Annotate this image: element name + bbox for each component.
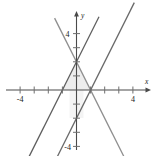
y-axis-label: y [80,11,85,20]
x-tick-label-pos4: 4 [131,95,135,104]
y-tick-label-neg4: -4 [64,143,71,152]
x-axis-label: x [144,77,149,86]
graph-canvas: -4 4 4 -4 x y [0,0,156,156]
y-tick-label-pos4: 4 [66,30,70,39]
x-tick-label-neg4: -4 [17,95,24,104]
coordinate-graph-figure: -4 4 4 -4 x y [0,0,156,156]
x-axis-arrow [146,88,152,93]
y-axis-arrow [74,11,79,17]
